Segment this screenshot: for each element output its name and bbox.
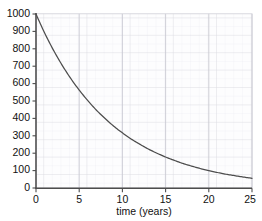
ytick-label-400: 400 <box>12 111 30 123</box>
xtick-label-0: 0 <box>33 193 39 205</box>
ytick-label-500: 500 <box>12 94 30 106</box>
xtick-label-20: 20 <box>203 193 215 205</box>
exponential-decay-chart: 0 100 200 300 400 500 600 700 800 900 10… <box>0 0 262 221</box>
ytick-label-900: 900 <box>12 24 30 36</box>
xtick-label-10: 10 <box>117 193 129 205</box>
xtick-label-15: 15 <box>160 193 172 205</box>
ytick-label-200: 200 <box>12 146 30 158</box>
ytick-label-700: 700 <box>12 59 30 71</box>
xtick-label-25: 25 <box>244 193 256 205</box>
xtick-label-5: 5 <box>76 193 82 205</box>
ytick-label-800: 800 <box>12 42 30 54</box>
ytick-label-0: 0 <box>24 181 30 193</box>
chart-container: 0 100 200 300 400 500 600 700 800 900 10… <box>0 0 262 221</box>
ytick-label-300: 300 <box>12 129 30 141</box>
major-gridlines <box>36 14 252 188</box>
ytick-label-1000: 1000 <box>7 7 31 19</box>
ytick-label-100: 100 <box>12 163 30 175</box>
ytick-label-600: 600 <box>12 76 30 88</box>
x-axis-title: time (years) <box>116 205 171 217</box>
